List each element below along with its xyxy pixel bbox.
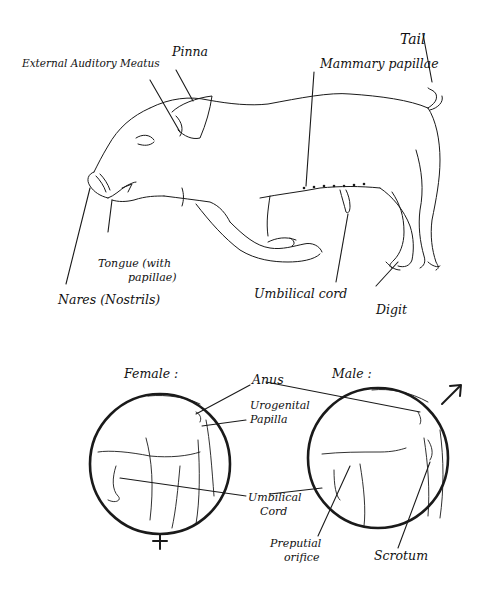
female-title: Female : bbox=[124, 368, 178, 381]
fetal-pig-diagram: External Auditory Meatus Pinna Tail Mamm… bbox=[0, 0, 495, 607]
label-scrotum: Scrotum bbox=[374, 550, 428, 563]
label-umbilical-cord-inset-line1: Umbilical bbox=[248, 492, 302, 503]
leader-lines-body bbox=[66, 34, 432, 286]
label-anus: Anus bbox=[252, 374, 284, 387]
label-tongue-line2: papillae) bbox=[128, 272, 177, 283]
label-external-auditory-meatus: External Auditory Meatus bbox=[22, 58, 160, 69]
label-tail: Tail bbox=[400, 32, 426, 46]
label-pinna: Pinna bbox=[172, 46, 208, 59]
label-umbilical-cord-inset-line2: Cord bbox=[260, 506, 287, 517]
pig-body-drawing bbox=[88, 88, 442, 270]
label-urogenital-line2: Papilla bbox=[250, 414, 288, 425]
female-inset-drawing bbox=[90, 394, 230, 549]
label-digit: Digit bbox=[376, 304, 407, 317]
label-tongue-line1: Tongue (with bbox=[98, 258, 171, 269]
label-preputial-line1: Preputial bbox=[270, 538, 321, 549]
label-mammary-papillae: Mammary papillae bbox=[320, 58, 439, 71]
label-nares: Nares (Nostrils) bbox=[58, 294, 160, 307]
label-umbilical-cord: Umbilical cord bbox=[254, 288, 347, 301]
label-urogenital-line1: Urogenital bbox=[250, 400, 310, 411]
leader-lines-male bbox=[318, 462, 430, 548]
label-preputial-line2: orifice bbox=[284, 552, 319, 563]
male-title: Male : bbox=[332, 368, 372, 381]
mammary-papillae-dots bbox=[303, 183, 366, 190]
